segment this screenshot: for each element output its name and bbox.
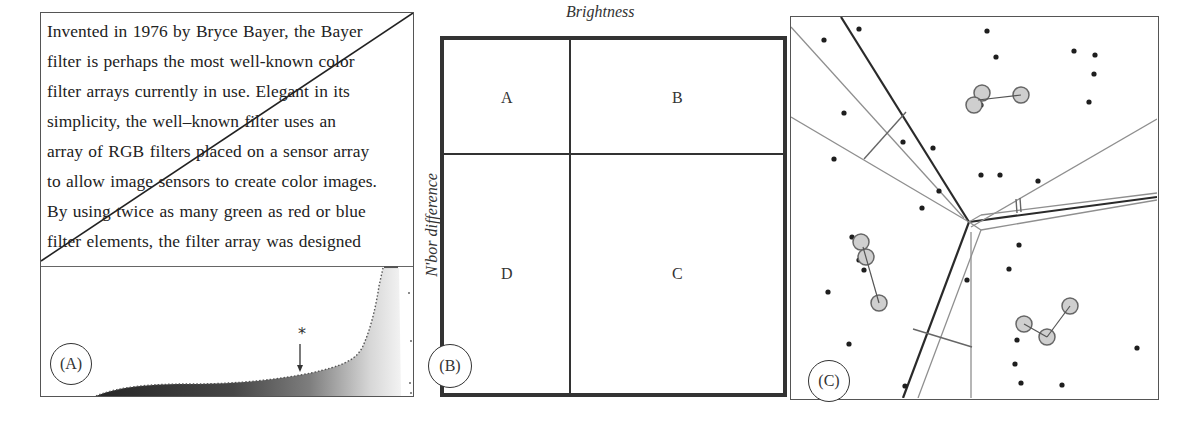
- brightness-histogram: *: [41, 266, 413, 396]
- horizontal-divider: [444, 153, 783, 155]
- diagonal-threshold-line: [41, 13, 413, 266]
- data-points: [821, 26, 1139, 388]
- voronoi-partition: [791, 17, 1157, 398]
- panel-a-label: (A): [50, 343, 92, 385]
- panel-a-text-block: Invented in 1976 by Bryce Bayer, the Bay…: [41, 13, 413, 267]
- neighbor-difference-axis-label: N'bor difference: [423, 173, 441, 277]
- quadrant-d: D: [501, 265, 513, 283]
- quadrant-c: C: [672, 265, 683, 283]
- quadrant-b: B: [672, 89, 683, 107]
- panel-c-voronoi-diagram: (C): [790, 16, 1159, 400]
- panel-b-quadrant-chart: A B D C (B): [440, 36, 787, 397]
- quadrant-a: A: [501, 89, 513, 107]
- panel-b-label: (B): [428, 344, 472, 388]
- asterisk-marker: *: [298, 324, 306, 343]
- brightness-axis-label: Brightness: [566, 3, 634, 21]
- vertical-divider: [569, 40, 571, 393]
- arrow-down-icon: [297, 365, 303, 372]
- panel-c-label: (C): [808, 360, 850, 402]
- panel-a-text-sample: Invented in 1976 by Bryce Bayer, the Bay…: [40, 12, 414, 397]
